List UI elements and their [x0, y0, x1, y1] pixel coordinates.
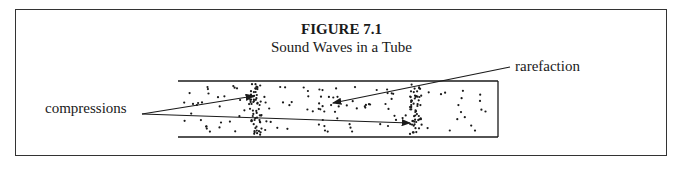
tube-diagram: [0, 0, 683, 169]
air-particles: [183, 83, 487, 136]
tube: [178, 81, 498, 137]
arrow-rarefaction: [333, 67, 510, 103]
arrows: [142, 67, 510, 123]
arrow-compression-2: [142, 114, 410, 123]
arrow-compression-1: [142, 96, 254, 114]
